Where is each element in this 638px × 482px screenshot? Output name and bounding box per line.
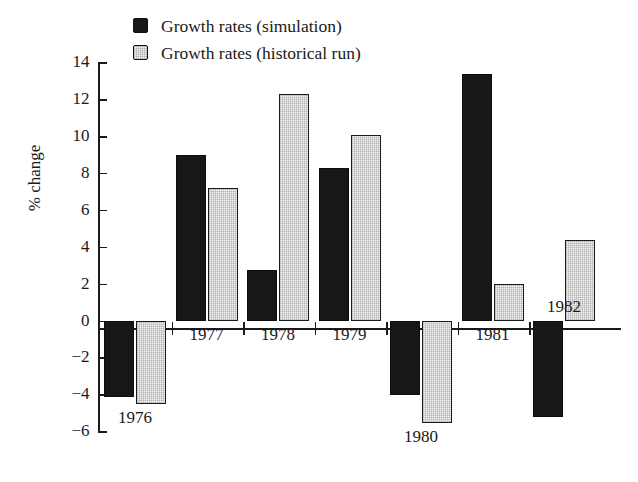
y-tick-12: 12: [98, 99, 107, 101]
x-tick-1977: [172, 322, 174, 335]
bar-1976-historical: [136, 321, 166, 404]
y-tick-2: 2: [98, 284, 107, 286]
group-label-1976: 1976: [118, 408, 152, 428]
y-tick-4: 4: [98, 247, 107, 249]
chart-legend: Growth rates (simulation) Growth rates (…: [133, 12, 463, 66]
legend-swatch-historical: [133, 45, 148, 60]
y-tick-6: 6: [98, 210, 107, 212]
y-tick-label: 2: [81, 274, 90, 294]
bar-1976-simulation: [104, 321, 134, 397]
bar-1982-simulation: [533, 321, 563, 417]
y-tick-label: −6: [71, 421, 89, 441]
bar-1981-simulation: [462, 74, 492, 321]
bar-1977-simulation: [176, 155, 206, 321]
bar-1978-simulation: [247, 270, 277, 322]
y-tick-label: 6: [81, 200, 90, 220]
y-tick-label: 14: [73, 52, 90, 72]
y-tick-label: −4: [71, 384, 89, 404]
legend-item-historical: Growth rates (historical run): [133, 39, 463, 66]
bar-1980-simulation: [390, 321, 420, 395]
y-tick-label: 8: [81, 163, 90, 183]
group-label-1980: 1980: [404, 427, 438, 447]
bar-1978-historical: [279, 94, 309, 321]
y-tick-label: 10: [73, 126, 90, 146]
legend-swatch-simulation: [133, 18, 148, 33]
bar-chart: Growth rates (simulation) Growth rates (…: [0, 0, 638, 482]
y-axis-title: % change: [25, 93, 45, 263]
y-tick-label: 0: [81, 311, 90, 331]
x-tick-1979: [315, 322, 317, 335]
bar-1981-historical: [494, 284, 524, 321]
y-tick-label: −2: [71, 347, 89, 367]
legend-label-historical: Growth rates (historical run): [161, 43, 361, 63]
x-tick-1982: [529, 322, 531, 335]
y-tick-10: 10: [98, 136, 107, 138]
group-label-1982: 1982: [547, 297, 581, 317]
legend-label-simulation: Growth rates (simulation): [161, 16, 342, 36]
plot-area: 14121086420−2−4−6: [98, 63, 621, 432]
y-tick-label: 4: [81, 237, 90, 257]
bar-1979-simulation: [319, 168, 349, 321]
y-tick-label: 12: [73, 89, 90, 109]
group-label-1978: 1978: [261, 325, 295, 345]
bar-1979-historical: [351, 135, 381, 321]
bar-1977-historical: [208, 188, 238, 321]
x-tick-1981: [458, 322, 460, 335]
y-tick-8: 8: [98, 173, 107, 175]
group-label-1977: 1977: [190, 325, 224, 345]
bar-1980-historical: [422, 321, 452, 422]
x-tick-1980: [386, 322, 388, 335]
y-tick--6: −6: [98, 431, 107, 433]
group-label-1979: 1979: [333, 325, 367, 345]
x-tick-1978: [243, 322, 245, 335]
y-tick-14: 14: [98, 62, 107, 64]
group-label-1981: 1981: [476, 325, 510, 345]
legend-item-simulation: Growth rates (simulation): [133, 12, 463, 39]
